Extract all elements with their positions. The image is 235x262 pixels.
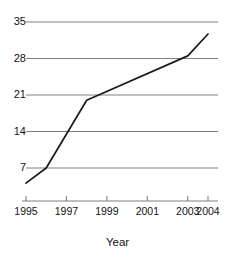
data-series (26, 34, 208, 183)
y-tick-label-14: 14 (0, 126, 26, 137)
y-tick-label-7: 7 (0, 162, 26, 173)
series-line-0 (26, 34, 208, 183)
chart-plot-area (0, 0, 235, 262)
x-tick-label-2004: 2004 (191, 206, 225, 217)
line-chart: 714212835 199519971999200120032004 Year (0, 0, 235, 262)
y-tick-label-35: 35 (0, 16, 26, 27)
x-tick-label-1995: 1995 (9, 206, 43, 217)
x-axis (22, 196, 218, 201)
y-tick-label-28: 28 (0, 53, 26, 64)
x-axis-title: Year (0, 236, 235, 248)
x-tick-label-2001: 2001 (130, 206, 164, 217)
gridlines (26, 22, 218, 168)
y-tick-label-21: 21 (0, 89, 26, 100)
x-tick-label-1999: 1999 (90, 206, 124, 217)
x-tick-label-1997: 1997 (49, 206, 83, 217)
